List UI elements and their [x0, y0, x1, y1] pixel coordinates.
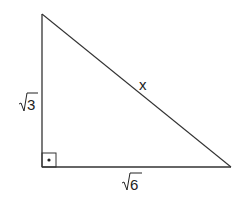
- triangle-diagram: 3 x 6: [0, 0, 244, 199]
- label-horizontal-leg: 6: [122, 173, 142, 193]
- vertical-leg-value: 3: [27, 96, 35, 113]
- horizontal-leg-value: 6: [130, 176, 138, 193]
- right-angle-dot: [47, 158, 50, 161]
- hypotenuse: [42, 14, 231, 167]
- hypotenuse-label: x: [139, 76, 147, 93]
- label-vertical-leg: 3: [19, 93, 38, 113]
